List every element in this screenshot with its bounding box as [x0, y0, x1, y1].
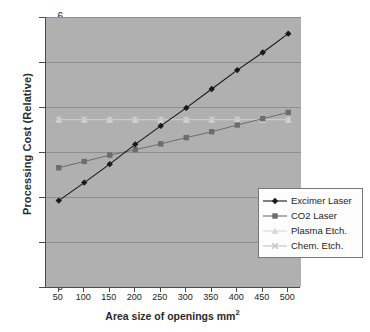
- x-tick-mark: [109, 287, 110, 292]
- data-point-marker: [158, 141, 163, 146]
- series-line: [59, 112, 289, 167]
- series-chem-etch: [56, 117, 291, 123]
- legend-label: Plasma Etch.: [288, 225, 347, 236]
- legend-label: Excimer Laser: [288, 195, 352, 206]
- triangle-marker-icon: [262, 224, 288, 238]
- legend-item[interactable]: Excimer Laser: [262, 193, 359, 208]
- data-point-marker: [133, 147, 138, 152]
- x-tick-mark: [287, 287, 288, 292]
- y-axis-title: Processing Cost (Relative): [21, 34, 33, 254]
- legend-label: CO2 Laser: [288, 210, 337, 221]
- x-tick-mark: [211, 287, 212, 292]
- series-co2-laser: [56, 110, 291, 171]
- data-point-marker: [235, 122, 240, 127]
- square-marker-icon: [262, 209, 288, 223]
- cross-marker-icon: [262, 239, 288, 253]
- legend: Excimer LaserCO2 LaserPlasma Etch.Chem. …: [258, 188, 363, 258]
- legend-item[interactable]: CO2 Laser: [262, 208, 359, 223]
- x-tick-mark: [160, 287, 161, 292]
- data-point-marker: [286, 110, 291, 115]
- x-tick-label: 500: [272, 292, 302, 302]
- series-line: [59, 34, 289, 201]
- x-axis-title-superscript: 2: [235, 308, 239, 317]
- diamond-marker-icon: [262, 194, 288, 208]
- x-tick-mark: [58, 287, 59, 292]
- x-tick-mark: [185, 287, 186, 292]
- legend-item[interactable]: Chem. Etch.: [262, 238, 359, 253]
- x-tick-mark: [262, 287, 263, 292]
- data-point-marker: [107, 152, 112, 157]
- legend-label: Chem. Etch.: [288, 240, 343, 251]
- legend-item[interactable]: Plasma Etch.: [262, 223, 359, 238]
- series-excimer-laser: [56, 30, 292, 203]
- data-point-marker: [56, 165, 61, 170]
- x-tick-mark: [83, 287, 84, 292]
- data-point-marker: [260, 116, 265, 121]
- data-point-marker: [209, 129, 214, 134]
- data-point-marker: [82, 159, 87, 164]
- x-axis-title: Area size of openings mm2: [45, 308, 300, 322]
- x-axis-title-text: Area size of openings mm: [105, 310, 235, 322]
- chart-figure: Processing Cost (Relative) 0123456 50100…: [0, 0, 370, 332]
- data-point-marker: [184, 135, 189, 140]
- x-tick-mark: [134, 287, 135, 292]
- x-tick-mark: [236, 287, 237, 292]
